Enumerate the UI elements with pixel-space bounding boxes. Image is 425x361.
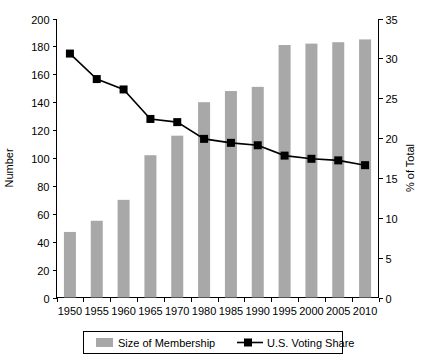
bar <box>252 87 264 298</box>
y-axis-left-tick-label: 180 <box>31 41 49 53</box>
y-axis-left-tick-label: 20 <box>37 265 49 277</box>
bar <box>198 102 210 297</box>
legend-label-us-voting-share: U.S. Voting Share <box>267 337 354 349</box>
y-axis-left-tick-label: 200 <box>31 14 49 26</box>
line-marker <box>307 155 315 163</box>
x-axis-tick-label: 2000 <box>299 305 323 317</box>
x-axis-tick-label: 1970 <box>165 305 189 317</box>
y-axis-right-tick-label: 10 <box>386 213 398 225</box>
x-axis-tick-label: 1995 <box>272 305 296 317</box>
y-axis-right-tick-label: 20 <box>386 133 398 145</box>
y-axis-left: 020406080100120140160180200 <box>31 14 56 305</box>
x-axis-tick-label: 2010 <box>353 305 377 317</box>
y-axis-left-title: Number <box>3 148 15 187</box>
line-series-us-voting-share <box>66 50 369 170</box>
bar <box>91 221 103 298</box>
bar <box>118 200 130 298</box>
line-marker <box>93 75 101 83</box>
line-path <box>70 54 365 166</box>
line-marker <box>66 50 74 58</box>
legend-swatch-bar <box>96 338 113 347</box>
y-axis-right-tick-label: 30 <box>386 53 398 65</box>
line-marker <box>200 135 208 143</box>
legend-label-size-of-membership: Size of Membership <box>118 337 215 349</box>
bar <box>171 136 183 298</box>
bar <box>225 91 237 297</box>
line-marker <box>173 118 181 126</box>
x-axis-tick-label: 1990 <box>246 305 270 317</box>
bar-series-size-of-membership <box>64 39 371 297</box>
y-axis-right-tick-label: 35 <box>386 14 398 26</box>
bar <box>144 155 156 297</box>
plot-axes <box>57 19 379 298</box>
y-axis-left-tick-label: 40 <box>37 237 49 249</box>
line-marker <box>120 85 128 93</box>
chart-container: 020406080100120140160180200 051015202530… <box>0 0 425 361</box>
y-axis-right-title: % of Total <box>404 144 416 192</box>
x-axis-tick-label: 1950 <box>58 305 82 317</box>
y-axis-left-tick-label: 80 <box>37 181 49 193</box>
line-marker <box>361 161 369 169</box>
bar <box>332 42 344 297</box>
y-axis-right-tick-label: 15 <box>386 173 398 185</box>
bar <box>64 232 76 298</box>
y-axis-right-tick-label: 0 <box>386 293 392 305</box>
line-marker <box>227 139 235 147</box>
line-marker <box>281 152 289 160</box>
y-axis-left-tick-label: 0 <box>43 293 49 305</box>
y-axis-left-tick-label: 120 <box>31 125 49 137</box>
y-axis-left-tick-label: 100 <box>31 153 49 165</box>
chart-legend: Size of Membership U.S. Voting Share <box>84 332 355 354</box>
line-marker <box>146 115 154 123</box>
x-axis: 1950195519601965197019801985199019952000… <box>58 298 380 317</box>
x-axis-tick-label: 1985 <box>219 305 243 317</box>
y-axis-left-tick-label: 160 <box>31 69 49 81</box>
y-axis-right-tick-label: 5 <box>386 253 392 265</box>
line-marker <box>334 156 342 164</box>
x-axis-tick-label: 1980 <box>192 305 216 317</box>
y-axis-right: 05101520253035 <box>379 14 398 305</box>
dual-axis-bar-line-chart: 020406080100120140160180200 051015202530… <box>0 0 425 361</box>
line-marker <box>254 141 262 149</box>
bar <box>305 44 317 298</box>
y-axis-left-tick-label: 140 <box>31 97 49 109</box>
x-axis-tick-label: 1965 <box>138 305 162 317</box>
y-axis-right-tick-label: 25 <box>386 93 398 105</box>
x-axis-tick-label: 1960 <box>111 305 135 317</box>
bar <box>279 45 291 298</box>
x-axis-tick-label: 2005 <box>326 305 350 317</box>
y-axis-left-tick-label: 60 <box>37 209 49 221</box>
x-axis-tick-label: 1955 <box>85 305 109 317</box>
